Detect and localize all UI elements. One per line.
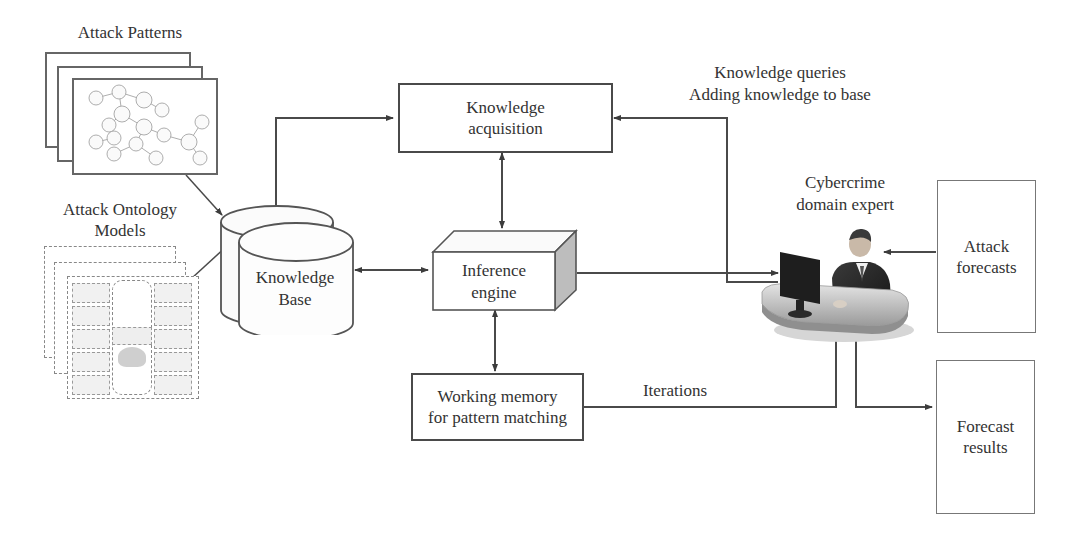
attack-patterns-sheets: [45, 50, 225, 180]
ontology-cloud-icon: [118, 347, 146, 367]
expert-title-line2: domain expert: [770, 194, 920, 215]
forecast-results-line2: results: [957, 437, 1015, 458]
adding-knowledge-label: Adding knowledge to base: [640, 84, 920, 105]
ontology-center-cell: [112, 327, 152, 345]
attack-forecasts-line2: forecasts: [956, 257, 1016, 278]
inference-engine-line1: Inference: [433, 260, 555, 281]
knowledge-base-line1: Knowledge: [240, 267, 350, 288]
knowledge-acquisition-line2: acquisition: [466, 118, 544, 139]
knowledge-base-cylinder-icon: [215, 180, 365, 335]
ontology-sheet-3: [67, 276, 199, 399]
attack-ontology-title-line1: Attack Ontology: [30, 199, 210, 220]
pattern-sheet-3: [72, 78, 218, 175]
attack-forecasts-box: Attack forecasts: [937, 180, 1036, 333]
iterations-label: Iterations: [620, 380, 730, 401]
working-memory-line2: for pattern matching: [428, 407, 567, 428]
working-memory-box: Working memory for pattern matching: [411, 373, 584, 441]
attack-ontology-title-line2: Models: [30, 220, 210, 241]
knowledge-acquisition-box: Knowledge acquisition: [398, 83, 613, 153]
attack-ontology-sheets: [44, 246, 204, 401]
working-memory-line1: Working memory: [428, 386, 567, 407]
attack-forecasts-line1: Attack: [956, 236, 1016, 257]
attack-patterns-title: Attack Patterns: [40, 22, 220, 43]
inference-engine-line2: engine: [433, 282, 555, 303]
expert-title-line1: Cybercrime: [770, 172, 920, 193]
forecast-results-box: Forecast results: [936, 360, 1035, 514]
knowledge-queries-label: Knowledge queries: [660, 62, 900, 83]
forecast-results-line1: Forecast: [957, 416, 1015, 437]
knowledge-base-line2: Base: [240, 289, 350, 310]
attack-graph-icon: [74, 80, 218, 175]
person-at-computer-icon: [752, 222, 917, 347]
knowledge-acquisition-line1: Knowledge: [466, 97, 544, 118]
